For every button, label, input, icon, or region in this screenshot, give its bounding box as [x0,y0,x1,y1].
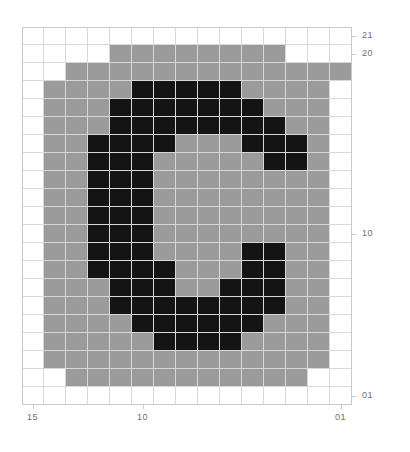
grid-cell[interactable] [220,279,242,297]
grid-cell[interactable] [22,279,44,297]
grid-cell[interactable] [176,243,198,261]
grid-cell[interactable] [198,387,220,405]
grid-cell[interactable] [88,315,110,333]
grid-cell[interactable] [198,207,220,225]
grid-cell[interactable] [242,207,264,225]
grid-cell[interactable] [308,171,330,189]
grid-cell[interactable] [242,261,264,279]
grid-cell[interactable] [286,99,308,117]
grid-cell[interactable] [330,315,352,333]
grid-cell[interactable] [22,99,44,117]
grid-cell[interactable] [176,171,198,189]
grid-cell[interactable] [330,279,352,297]
grid-cell[interactable] [286,333,308,351]
grid-cell[interactable] [66,351,88,369]
grid-cell[interactable] [110,189,132,207]
grid-cell[interactable] [176,261,198,279]
grid-cell[interactable] [286,315,308,333]
grid-cell[interactable] [264,351,286,369]
grid-cell[interactable] [330,117,352,135]
grid-cell[interactable] [264,117,286,135]
grid-cell[interactable] [308,333,330,351]
grid-cell[interactable] [198,27,220,45]
grid-cell[interactable] [110,117,132,135]
grid-cell[interactable] [176,45,198,63]
grid-cell[interactable] [220,153,242,171]
grid-cell[interactable] [154,387,176,405]
grid-cell[interactable] [132,387,154,405]
grid-cell[interactable] [176,207,198,225]
grid-cell[interactable] [66,369,88,387]
grid-cell[interactable] [22,171,44,189]
grid-cell[interactable] [220,99,242,117]
grid-cell[interactable] [132,243,154,261]
grid-cell[interactable] [154,279,176,297]
grid-cell[interactable] [242,81,264,99]
grid-cell[interactable] [176,369,198,387]
grid-cell[interactable] [22,369,44,387]
grid-cell[interactable] [242,315,264,333]
grid-cell[interactable] [264,45,286,63]
grid-cell[interactable] [176,315,198,333]
grid-cell[interactable] [286,351,308,369]
grid-cell[interactable] [220,117,242,135]
grid-cell[interactable] [198,369,220,387]
grid-cell[interactable] [330,243,352,261]
grid-cell[interactable] [220,351,242,369]
grid-cell[interactable] [198,351,220,369]
grid-cell[interactable] [176,351,198,369]
grid-cell[interactable] [66,27,88,45]
grid-cell[interactable] [242,45,264,63]
grid-cell[interactable] [264,135,286,153]
grid-cell[interactable] [88,261,110,279]
grid-cell[interactable] [242,333,264,351]
grid-cell[interactable] [198,135,220,153]
grid-cell[interactable] [22,315,44,333]
grid-cell[interactable] [44,171,66,189]
grid-cell[interactable] [66,171,88,189]
grid-cell[interactable] [176,81,198,99]
grid-cell[interactable] [220,207,242,225]
grid-cell[interactable] [286,81,308,99]
grid-cell[interactable] [44,225,66,243]
grid-cell[interactable] [66,189,88,207]
grid-cell[interactable] [154,243,176,261]
grid-cell[interactable] [242,369,264,387]
grid-cell[interactable] [88,387,110,405]
grid-cell[interactable] [286,261,308,279]
grid-cell[interactable] [176,63,198,81]
grid-cell[interactable] [44,63,66,81]
grid-cell[interactable] [264,189,286,207]
grid-cell[interactable] [264,27,286,45]
grid-cell[interactable] [44,99,66,117]
grid-cell[interactable] [66,261,88,279]
grid-cell[interactable] [88,45,110,63]
grid-cell[interactable] [308,189,330,207]
grid-cell[interactable] [22,45,44,63]
grid-cell[interactable] [132,351,154,369]
grid-cell[interactable] [22,81,44,99]
grid-cell[interactable] [110,45,132,63]
grid-cell[interactable] [264,261,286,279]
grid-cell[interactable] [44,189,66,207]
grid-cell[interactable] [110,171,132,189]
grid-cell[interactable] [198,189,220,207]
grid-cell[interactable] [22,351,44,369]
grid-cell[interactable] [110,207,132,225]
grid-cell[interactable] [66,333,88,351]
grid-cell[interactable] [242,171,264,189]
grid-cell[interactable] [330,189,352,207]
grid-cell[interactable] [330,81,352,99]
grid-cell[interactable] [198,117,220,135]
grid-cell[interactable] [132,81,154,99]
grid-cell[interactable] [88,63,110,81]
grid-cell[interactable] [242,387,264,405]
grid-cell[interactable] [110,99,132,117]
grid-cell[interactable] [44,315,66,333]
grid-cell[interactable] [44,297,66,315]
grid-cell[interactable] [242,99,264,117]
grid-cell[interactable] [242,297,264,315]
grid-cell[interactable] [44,351,66,369]
grid-cell[interactable] [198,171,220,189]
grid-cell[interactable] [308,351,330,369]
